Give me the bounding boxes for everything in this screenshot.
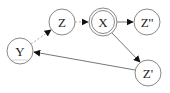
edge-x-to-z-prime bbox=[112, 33, 140, 62]
node-z-prime-label: Z' bbox=[143, 66, 153, 81]
node-z-double-prime-label: Z'' bbox=[141, 15, 154, 30]
node-y-label: Y bbox=[15, 44, 25, 59]
edge-y-to-z bbox=[31, 30, 51, 44]
node-y[interactable]: Y bbox=[7, 38, 33, 64]
node-x[interactable]: X bbox=[89, 8, 117, 36]
node-z-prime[interactable]: Z' bbox=[135, 60, 161, 86]
graph-canvas: Y Z X Z'' Z' bbox=[0, 0, 170, 93]
node-x-label: X bbox=[98, 15, 108, 30]
node-z-label: Z bbox=[58, 15, 66, 30]
node-z[interactable]: Z bbox=[49, 9, 75, 35]
edge-z-prime-to-y bbox=[34, 52, 135, 70]
node-z-double-prime[interactable]: Z'' bbox=[134, 9, 160, 35]
